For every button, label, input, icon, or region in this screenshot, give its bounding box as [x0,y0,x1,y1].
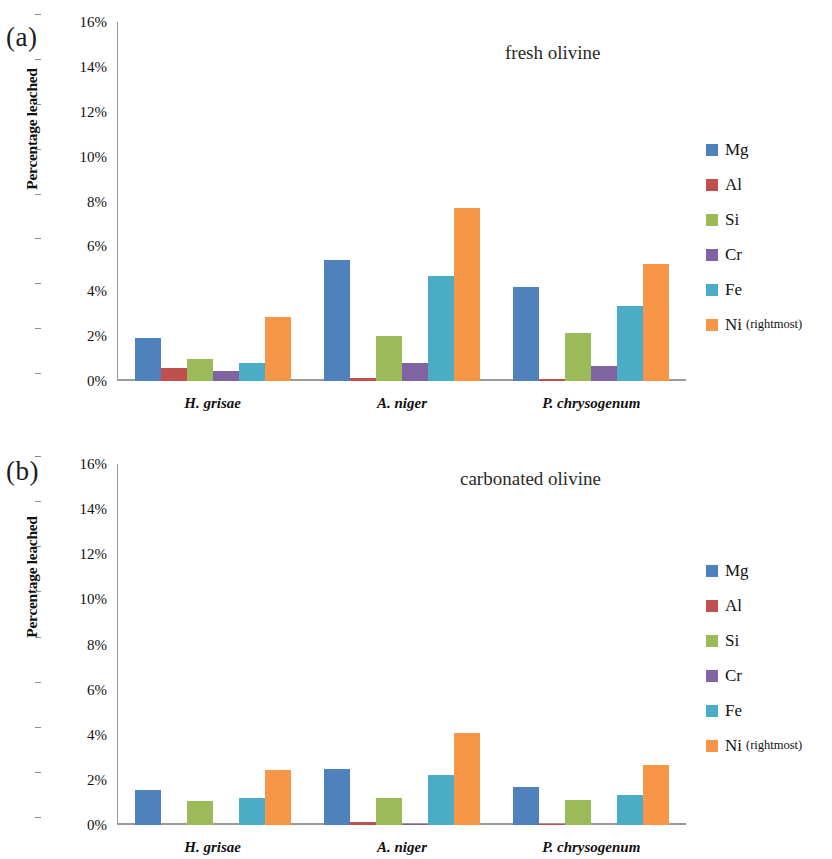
bar-si [376,336,402,381]
y-tick-label: 2% [41,772,118,787]
y-tick-mark [35,149,41,150]
legend-swatch-mg [706,144,718,156]
bar-group: H. grisae [118,464,307,825]
legend-label: Fe [725,701,742,721]
y-tick-mark [35,283,41,284]
legend-swatch-ni [706,740,718,752]
legend-item-fe: Fe [706,272,802,307]
x-axis-category-label: H. grisae [118,395,307,412]
y-tick-mark [35,238,41,239]
y-tick-mark [35,682,41,683]
y-tick-label: 16% [41,15,118,30]
legend-label: Cr [725,666,742,686]
bar-si [187,801,213,825]
y-tick-mark [35,637,41,638]
bar-group: A. niger [307,464,496,825]
bar-cr [213,371,239,381]
legend-item-si: Si [706,623,802,658]
legend-note: (rightmost) [746,317,802,332]
legend-swatch-cr [706,670,718,682]
y-tick-mark [35,546,41,547]
bar-ni [265,317,291,381]
legend-label: Ni [725,736,742,756]
y-tick-label: 16% [41,457,118,472]
y-tick-mark [35,772,41,773]
bar-ni [265,770,291,825]
y-tick-label: 14% [41,59,118,74]
bar-mg [513,287,539,381]
bar-si [376,798,402,825]
bar-ni [454,208,480,381]
legend-swatch-si [706,635,718,647]
bar-mg [513,787,539,825]
legend-item-al: Al [706,167,802,202]
bar-group: A. niger [307,22,496,381]
bar-si [565,333,591,381]
bar-fe [617,795,643,825]
y-tick-label: 2% [41,329,118,344]
legend-item-ni: Ni(rightmost) [706,307,802,342]
x-axis-category-label: A. niger [307,395,496,412]
chart-panel-a: (a) Percentage leached fresh olivine 0%2… [0,0,832,440]
y-tick-mark [35,194,41,195]
y-tick-label: 10% [41,592,118,607]
chart-panel-b: (b) Percentage leached carbonated olivin… [0,440,832,859]
x-axis-category-label: P. chrysogenum [497,839,686,856]
legend-label: Mg [725,561,749,581]
legend-item-cr: Cr [706,237,802,272]
bar-fe [239,798,265,825]
y-tick-mark [35,501,41,502]
y-tick-label: 12% [41,547,118,562]
bar-al [539,379,565,381]
y-tick-label: 4% [41,284,118,299]
bar-groups-b: H. grisaeA. nigerP. chrysogenum [118,464,686,825]
legend-swatch-mg [706,565,718,577]
legend-label: Fe [725,280,742,300]
legend-item-mg: Mg [706,132,802,167]
bar-cr [402,363,428,381]
bar-al [350,822,376,825]
y-tick-label: 0% [41,374,118,389]
legend-swatch-al [706,179,718,191]
legend-label: Si [725,210,739,230]
x-axis-category-label: A. niger [307,839,496,856]
x-axis-category-label: H. grisae [118,839,307,856]
y-tick-label: 4% [41,727,118,742]
y-axis-title-a: Percentage leached [23,19,41,239]
bar-fe [428,276,454,381]
legend-label: Al [725,175,742,195]
y-tick-label: 8% [41,194,118,209]
y-axis-title-b: Percentage leached [23,467,41,687]
legend-label: Ni [725,315,742,335]
bar-fe [428,775,454,825]
legend-label: Mg [725,140,749,160]
bar-al [539,824,565,825]
bar-cr [402,824,428,825]
legend-swatch-ni [706,319,718,331]
bar-mg [135,790,161,825]
bar-ni [454,733,480,826]
bar-group: P. chrysogenum [497,22,686,381]
bar-al [350,378,376,381]
legend-label: Al [725,596,742,616]
bar-group: H. grisae [118,22,307,381]
bar-group: P. chrysogenum [497,464,686,825]
bar-mg [324,260,350,381]
legend-swatch-al [706,600,718,612]
y-tick-mark [35,104,41,105]
y-tick-label: 12% [41,104,118,119]
legend-note: (rightmost) [746,738,802,753]
legend-item-al: Al [706,588,802,623]
legend-label: Si [725,631,739,651]
legend-item-ni: Ni(rightmost) [706,728,802,763]
bar-ni [643,264,669,381]
bar-si [565,800,591,825]
bar-fe [239,363,265,381]
plot-area-b: 0%2%4%6%8%10%12%14%16% H. grisaeA. niger… [118,464,686,825]
x-axis-category-label: P. chrysogenum [497,395,686,412]
y-tick-label: 6% [41,682,118,697]
bar-fe [617,306,643,381]
legend-swatch-cr [706,249,718,261]
legend-item-cr: Cr [706,658,802,693]
legend-swatch-fe [706,705,718,717]
